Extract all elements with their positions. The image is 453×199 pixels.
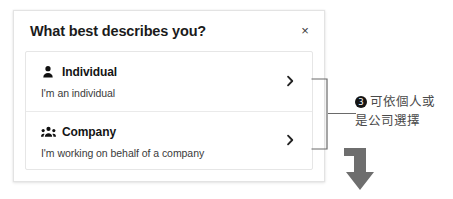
person-icon [41, 65, 55, 79]
option-title: Individual [62, 65, 117, 79]
annotation-line-2: 是公司選擇 [355, 113, 420, 128]
options-card: Individual I'm an individual [25, 51, 313, 170]
people-group-icon [41, 125, 55, 139]
chevron-right-icon[interactable] [286, 133, 295, 147]
dialog-header: What best describes you? × [14, 11, 324, 51]
option-subtitle: I'm working on behalf of a company [41, 147, 274, 159]
bent-down-arrow-icon [343, 146, 383, 192]
annotation-callout: 3可依個人或是公司選擇 [355, 92, 451, 130]
option-row-individual[interactable]: Individual I'm an individual [26, 52, 312, 111]
option-head: Company [41, 124, 274, 140]
chevron-right-icon[interactable] [286, 74, 295, 88]
option-title: Company [62, 125, 116, 139]
close-icon[interactable]: × [297, 23, 313, 39]
describe-you-dialog: What best describes you? × Individual I'… [13, 10, 325, 182]
option-row-company[interactable]: Company I'm working on behalf of a compa… [26, 111, 312, 170]
option-subtitle: I'm an individual [41, 87, 274, 99]
option-head: Individual [41, 64, 274, 80]
status-badge: 3 [355, 96, 367, 108]
annotation-line-1: 可依個人或 [370, 94, 435, 109]
page-title: What best describes you? [30, 23, 206, 39]
annotation-lead-line [328, 113, 356, 114]
bracket-connector [311, 78, 329, 150]
